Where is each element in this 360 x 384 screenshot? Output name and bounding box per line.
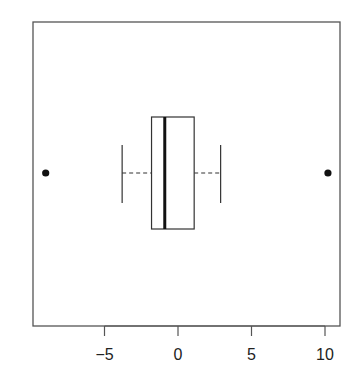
x-axis: −50510 xyxy=(95,326,334,363)
x-tick-label: 5 xyxy=(247,346,256,363)
x-tick-label: 0 xyxy=(174,346,183,363)
boxplot xyxy=(42,117,331,229)
outlier-point xyxy=(324,169,331,176)
boxplot-chart: −50510 xyxy=(0,0,360,384)
x-tick-label: 10 xyxy=(316,346,334,363)
outlier-point xyxy=(42,169,49,176)
iqr-box xyxy=(152,117,195,229)
x-tick-label: −5 xyxy=(95,346,113,363)
